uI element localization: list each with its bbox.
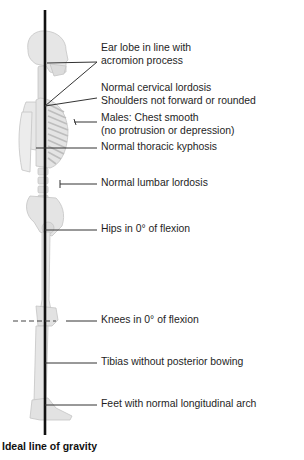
- label-feet: Feet with normal longitudinal arch: [101, 398, 256, 411]
- label-lumbar: Normal lumbar lordosis: [101, 177, 208, 190]
- label-line: Males: Chest smooth: [101, 112, 234, 125]
- label-line: acromion process: [101, 55, 191, 68]
- label-cervical: Normal cervical lordosis Shoulders not f…: [101, 82, 256, 107]
- diagram-title: Ideal line of gravity: [2, 440, 97, 452]
- label-tibias: Tibias without posterior bowing: [101, 356, 243, 369]
- label-line: (no protrusion or depression): [101, 125, 234, 138]
- label-ear-lobe: Ear lobe in line with acromion process: [101, 42, 191, 67]
- label-line: Ear lobe in line with: [101, 42, 191, 55]
- label-line: Normal cervical lordosis: [101, 82, 256, 95]
- posture-diagram: Ear lobe in line with acromion process N…: [0, 0, 304, 460]
- label-line: Feet with normal longitudinal arch: [101, 398, 256, 411]
- label-line: Shoulders not forward or rounded: [101, 95, 256, 108]
- label-line: Hips in 0° of flexion: [101, 223, 190, 236]
- label-knees: Knees in 0° of flexion: [101, 314, 199, 327]
- label-line: Knees in 0° of flexion: [101, 314, 199, 327]
- label-line: Normal lumbar lordosis: [101, 177, 208, 190]
- label-thoracic: Normal thoracic kyphosis: [101, 141, 217, 154]
- label-line: Tibias without posterior bowing: [101, 356, 243, 369]
- label-chest: Males: Chest smooth (no protrusion or de…: [101, 112, 234, 137]
- label-hips: Hips in 0° of flexion: [101, 223, 190, 236]
- label-line: Normal thoracic kyphosis: [101, 141, 217, 154]
